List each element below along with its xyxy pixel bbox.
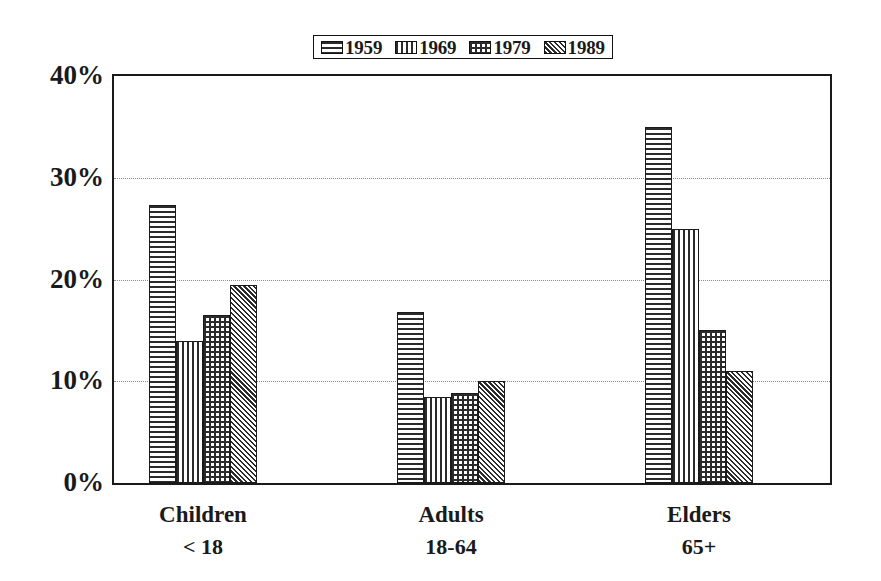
bar-adults-1989 [478, 381, 505, 483]
legend-swatch-1969-icon [395, 41, 417, 54]
bar-elders-1959 [645, 127, 672, 483]
bar-children-1979 [203, 315, 230, 483]
x-category-range: 18-64 [361, 531, 541, 563]
x-category-name: Adults [418, 502, 483, 527]
legend-label-1969: 1969 [419, 38, 456, 57]
bar-children-1969 [176, 341, 203, 483]
legend-label-1989: 1989 [568, 38, 605, 57]
bar-elders-1969 [672, 229, 699, 483]
y-tick-label-10: 10% [8, 367, 104, 394]
bars-layer [114, 76, 830, 483]
x-category-label-adults: Adults18-64 [361, 498, 541, 563]
y-tick-label-20: 20% [8, 266, 104, 293]
bar-children-1989 [230, 285, 257, 483]
bar-elders-1989 [726, 371, 753, 483]
legend-swatch-1979-icon [469, 41, 491, 54]
x-category-range: 65+ [609, 531, 789, 563]
bar-group-elders [645, 76, 753, 483]
bar-adults-1969 [424, 397, 451, 483]
legend-swatch-1989-icon [544, 41, 566, 54]
bar-adults-1979 [451, 393, 478, 483]
legend-entry-1969: 1969 [395, 38, 456, 57]
y-tick-label-0: 0% [8, 469, 104, 496]
x-category-name: Children [159, 502, 247, 527]
x-axis: Children< 18Adults18-64Elders65+ [114, 498, 830, 578]
bar-group-children [149, 76, 257, 483]
y-tick-label-40: 40% [8, 62, 104, 89]
x-category-name: Elders [667, 502, 731, 527]
y-tick-label-30: 30% [8, 164, 104, 191]
bar-adults-1959 [397, 312, 424, 483]
bar-elders-1979 [699, 330, 726, 483]
legend-entry-1959: 1959 [321, 38, 382, 57]
legend-swatch-1959-icon [321, 41, 343, 54]
x-category-label-elders: Elders65+ [609, 498, 789, 563]
bar-group-adults [397, 76, 505, 483]
legend-entry-1979: 1979 [469, 38, 530, 57]
legend-label-1979: 1979 [493, 38, 530, 57]
x-category-label-children: Children< 18 [113, 498, 293, 563]
legend-entry-1989: 1989 [544, 38, 605, 57]
bar-children-1959 [149, 205, 176, 483]
x-category-range: < 18 [113, 531, 293, 563]
chart-legend: 1959 1969 1979 1989 [313, 35, 613, 59]
legend-label-1959: 1959 [345, 38, 382, 57]
